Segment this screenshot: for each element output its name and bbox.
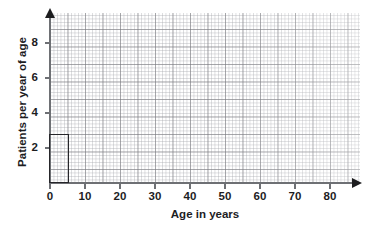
x-tick-mark xyxy=(224,184,225,189)
x-tick-mark xyxy=(154,184,155,189)
x-axis-line xyxy=(49,182,354,184)
x-tick-label: 80 xyxy=(310,190,350,202)
x-axis-title: Age in years xyxy=(50,208,360,220)
x-tick-mark xyxy=(49,184,50,189)
x-tick-label: 60 xyxy=(240,190,280,202)
graph-paper-grid xyxy=(50,13,360,183)
x-tick-label: 70 xyxy=(275,190,315,202)
x-tick-mark xyxy=(259,184,260,189)
bar xyxy=(49,134,69,183)
x-tick-mark xyxy=(84,184,85,189)
bar-chart: 2468 01020304050607080 Age in years Pati… xyxy=(0,0,371,233)
y-tick-mark xyxy=(45,77,51,78)
x-tick-label: 20 xyxy=(100,190,140,202)
x-tick-mark xyxy=(329,184,330,189)
x-tick-label: 50 xyxy=(205,190,245,202)
x-axis-arrow-icon xyxy=(352,178,362,188)
x-tick-mark xyxy=(294,184,295,189)
y-tick-mark xyxy=(45,112,51,113)
y-axis-title: Patients per year of age xyxy=(16,12,28,192)
x-tick-label: 30 xyxy=(135,190,175,202)
x-tick-mark xyxy=(189,184,190,189)
x-tick-label: 40 xyxy=(170,190,210,202)
x-tick-label: 0 xyxy=(30,190,70,202)
y-tick-mark xyxy=(45,42,51,43)
x-tick-mark xyxy=(119,184,120,189)
y-axis-arrow-icon xyxy=(45,8,55,18)
x-tick-label: 10 xyxy=(65,190,105,202)
